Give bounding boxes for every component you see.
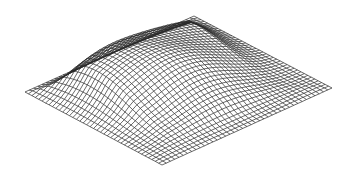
surface-plot [0,0,353,181]
mesh-lines [25,16,332,165]
wireframe-mesh [0,0,353,181]
